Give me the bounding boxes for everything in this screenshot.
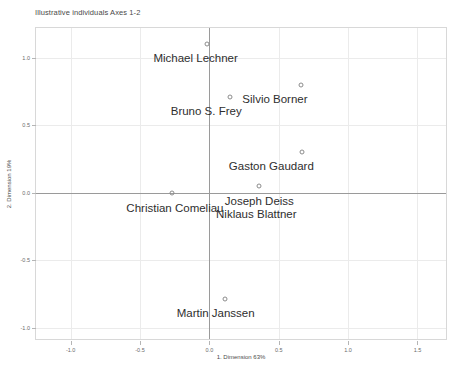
zero-line-horizontal xyxy=(36,193,446,194)
gridline-vertical xyxy=(348,28,349,339)
x-axis-tick-label: -0.5 xyxy=(135,347,144,353)
y-axis-title-text: 2. Dimension 19% xyxy=(6,159,12,208)
data-point-label: Bruno S. Frey xyxy=(171,105,242,118)
y-axis-tick xyxy=(32,260,36,261)
data-point-marker[interactable] xyxy=(300,150,305,155)
gridline-vertical xyxy=(417,28,418,339)
data-point-label: Martin Janssen xyxy=(177,307,255,320)
y-axis-tick-label: 0.0 xyxy=(16,190,30,196)
x-axis-tick-label: -1.0 xyxy=(66,347,75,353)
data-point-marker[interactable] xyxy=(169,190,174,195)
gridline-vertical xyxy=(279,28,280,339)
x-axis-tick xyxy=(348,341,349,345)
data-point-marker[interactable] xyxy=(222,297,227,302)
data-point-label: Gaston Gaudard xyxy=(229,160,314,173)
scatter-plot-figure: Illustrative individuals Axes 1-2 -1.0-0… xyxy=(0,0,460,376)
data-point-label: Silvio Borner xyxy=(242,93,307,106)
y-axis-tick xyxy=(32,193,36,194)
data-point-label: Christian Comeliau xyxy=(126,202,223,215)
x-axis-tick xyxy=(417,341,418,345)
data-point-label: Joseph Deiss xyxy=(225,195,294,208)
x-axis-tick-label: 0.5 xyxy=(275,347,283,353)
y-axis-tick-label: 1.0 xyxy=(16,55,30,61)
y-axis-tick xyxy=(32,125,36,126)
x-axis-tick xyxy=(209,341,210,345)
x-axis-title: 1. Dimension 63% xyxy=(35,354,447,360)
plot-area: -1.0-0.50.00.51.01.51.00.50.0-0.5-1.0 Mi… xyxy=(35,27,447,340)
data-point-marker[interactable] xyxy=(228,94,233,99)
gridline-horizontal xyxy=(36,125,446,126)
chart-title: Illustrative individuals Axes 1-2 xyxy=(35,8,140,17)
y-axis-tick-label: -1.0 xyxy=(16,325,30,331)
gridline-horizontal xyxy=(36,58,446,59)
x-axis-tick-label: 1.0 xyxy=(344,347,352,353)
y-axis-tick-label: 0.5 xyxy=(16,122,30,128)
data-point-marker[interactable] xyxy=(298,82,303,87)
data-point-label: Niklaus Blattner xyxy=(216,208,297,221)
gridline-horizontal xyxy=(36,260,446,261)
gridline-horizontal xyxy=(36,328,446,329)
x-axis-tick xyxy=(71,341,72,345)
gridline-vertical xyxy=(140,28,141,339)
x-axis-tick-label: 0.0 xyxy=(206,347,214,353)
x-axis-tick-label: 1.5 xyxy=(414,347,422,353)
x-axis-tick xyxy=(279,341,280,345)
data-point-marker[interactable] xyxy=(204,42,209,47)
y-axis-title: 2. Dimension 19% xyxy=(4,27,14,340)
y-axis-tick xyxy=(32,328,36,329)
gridline-vertical xyxy=(71,28,72,339)
x-axis-tick xyxy=(140,341,141,345)
data-point-marker[interactable] xyxy=(257,183,262,188)
y-axis-tick xyxy=(32,58,36,59)
y-axis-tick-label: -0.5 xyxy=(16,257,30,263)
data-point-label: Michael Lechner xyxy=(153,52,237,65)
zero-line-vertical xyxy=(209,28,210,339)
